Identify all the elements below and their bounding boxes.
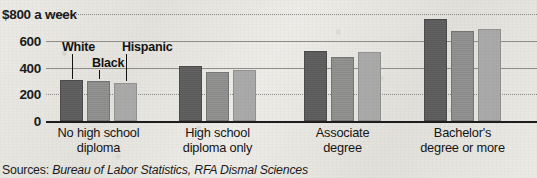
category-label-line: High school bbox=[159, 126, 276, 141]
bar-hispanic bbox=[478, 29, 501, 121]
source-note: Sources: Bureau of Labor Statistics, RFA… bbox=[2, 163, 308, 177]
category-label-line: degree or more bbox=[404, 141, 521, 156]
category-label-line: degree bbox=[284, 141, 401, 156]
bar-group bbox=[304, 0, 381, 121]
annotation-black: Black bbox=[92, 56, 124, 70]
leader-line-black bbox=[99, 70, 100, 79]
bar-hispanic bbox=[233, 70, 256, 121]
leader-line-hispanic bbox=[126, 54, 127, 81]
annotation-white: White bbox=[62, 40, 95, 54]
category-label-line: No high school bbox=[40, 126, 157, 141]
category-label: Associatedegree bbox=[284, 126, 401, 155]
bar-black bbox=[451, 31, 474, 121]
x-axis-baseline bbox=[46, 121, 537, 123]
bar-group bbox=[179, 0, 256, 121]
bar-white bbox=[60, 80, 83, 121]
source-prefix: Sources: bbox=[2, 163, 49, 177]
plot-area: 0200400600$800 a week WhiteBlackHispanic… bbox=[46, 0, 537, 178]
y-axis-tick-400: 400 bbox=[19, 60, 41, 75]
bar-black bbox=[331, 57, 354, 121]
category-label: Bachelor'sdegree or more bbox=[404, 126, 521, 155]
category-label: No high schooldiploma bbox=[40, 126, 157, 155]
bar-group bbox=[424, 0, 501, 121]
chart-page: 0200400600$800 a week WhiteBlackHispanic… bbox=[0, 0, 537, 178]
bar-white bbox=[179, 66, 202, 122]
bar-black bbox=[87, 81, 110, 121]
category-label-line: Associate bbox=[284, 126, 401, 141]
source-text: Bureau of Labor Statistics, RFA Dismal S… bbox=[52, 163, 308, 177]
annotation-hispanic: Hispanic bbox=[122, 40, 173, 54]
category-label: High schooldiploma only bbox=[159, 126, 276, 155]
bar-hispanic bbox=[358, 52, 381, 121]
category-label-line: diploma only bbox=[159, 141, 276, 156]
bar-white bbox=[424, 19, 447, 121]
leader-line-white bbox=[72, 54, 73, 79]
bar-hispanic bbox=[114, 83, 137, 121]
y-axis-tick-600: 600 bbox=[19, 33, 41, 48]
category-label-line: diploma bbox=[40, 141, 157, 156]
bar-black bbox=[206, 72, 229, 121]
y-axis-tick-200: 200 bbox=[19, 87, 41, 102]
bar-white bbox=[304, 51, 327, 121]
category-label-line: Bachelor's bbox=[404, 126, 521, 141]
